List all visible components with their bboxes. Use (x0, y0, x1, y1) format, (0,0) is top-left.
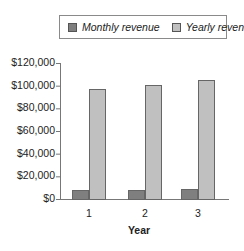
bar-yearly-revenue-1 (89, 89, 106, 200)
y-tick-label: $40,000 (17, 147, 55, 159)
plot-area: $0$20,000$40,000$60,000$80,000$100,000$1… (0, 0, 244, 251)
bar-monthly-revenue-1 (72, 190, 89, 200)
bar-yearly-revenue-3 (198, 80, 215, 200)
x-tick-label: 3 (188, 207, 208, 219)
y-tick-label: $120,000 (11, 56, 55, 68)
y-tick-label: $60,000 (17, 124, 55, 136)
x-tick-label: 1 (79, 207, 99, 219)
y-tick-label: $20,000 (17, 169, 55, 181)
x-tick-label: 2 (135, 207, 155, 219)
bar-yearly-revenue-2 (145, 85, 162, 200)
y-tick-label: $100,000 (11, 79, 55, 91)
bar-monthly-revenue-3 (181, 189, 198, 200)
bar-monthly-revenue-2 (128, 190, 145, 200)
y-tick-label: $0 (43, 192, 55, 204)
x-axis-label: Year (119, 224, 159, 236)
y-tick-label: $80,000 (17, 101, 55, 113)
